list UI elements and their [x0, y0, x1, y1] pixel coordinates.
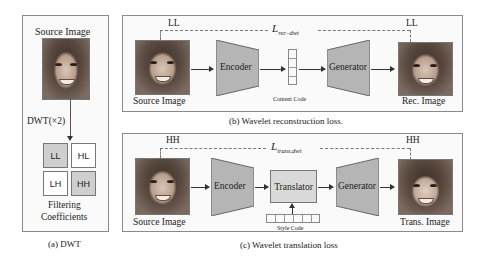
translator-block: Translator	[270, 170, 317, 203]
generator-label-c: Generator	[338, 181, 376, 191]
source-face-c	[135, 158, 190, 215]
caption-a: (a) DWT	[48, 239, 81, 249]
dashed-loss-line-c-left	[160, 148, 266, 149]
dwt-arrow-head	[67, 136, 73, 141]
coef-ll: LL	[43, 143, 68, 168]
coef-hh: HH	[71, 171, 96, 196]
band-hh-left: HH	[166, 135, 180, 145]
dashed-loss-line-b-left	[160, 30, 268, 31]
style-code-arrow-head	[289, 203, 295, 208]
encoder-label-b: Encoder	[220, 62, 252, 72]
arrow-generator-output-b	[371, 69, 394, 70]
style-code-vector	[266, 214, 320, 223]
generator-label-b: Generator	[329, 62, 367, 72]
source-label-b: Source Image	[133, 96, 186, 106]
source-image-title: Source Image	[35, 26, 90, 37]
dwt-arrow-line	[70, 99, 71, 137]
dashed-up-left-b	[160, 30, 161, 40]
arrow-src-encoder-c	[191, 187, 209, 188]
trans-image-label: Trans. Image	[400, 217, 450, 227]
coefficients-label-1: Filtering	[48, 200, 81, 210]
caption-c: (c) Wavelet translation loss	[240, 240, 338, 250]
loss-subscript: rec–dwt	[278, 29, 299, 36]
dashed-up-left-c	[160, 148, 161, 158]
arrow-encoder-translator	[255, 187, 268, 188]
arrow-src-encoder-b	[191, 69, 213, 70]
source-label-c: Source Image	[133, 217, 186, 227]
style-code-label: Style Code	[277, 225, 304, 231]
loss-trans-dwt: Ltrans.dwt	[271, 140, 302, 154]
arrow-translator-generator	[318, 187, 333, 188]
trans-face-image	[398, 159, 453, 215]
caption-b: (b) Wavelet reconstruction loss.	[229, 116, 343, 126]
content-code-label: Content Code	[273, 96, 306, 102]
band-ll-left: LL	[168, 18, 180, 28]
content-code-vector	[288, 49, 297, 85]
rec-image-label: Rec. Image	[402, 96, 445, 106]
coef-hl: HL	[71, 143, 96, 168]
dashed-loss-line-c-right	[320, 148, 410, 149]
arrow-generator-output-c	[380, 187, 394, 188]
band-ll-right: LL	[406, 18, 418, 28]
source-face-image	[42, 38, 90, 100]
coefficients-label-2: Coefficients	[41, 212, 87, 222]
rec-face-image	[398, 42, 453, 96]
dwt-operation-label: DWT(×2)	[27, 116, 65, 126]
coef-lh: LH	[43, 171, 68, 196]
arrow-code-generator-b	[299, 69, 325, 70]
band-hh-right: HH	[406, 135, 420, 145]
loss-rec-dwt: Lrec–dwt	[272, 22, 299, 36]
dashed-loss-line-b-right	[318, 30, 410, 31]
source-face-b	[135, 40, 190, 95]
dashed-up-right-b	[410, 30, 411, 42]
encoder-label-c: Encoder	[214, 181, 246, 191]
loss-subscript-c: trans.dwt	[277, 147, 301, 154]
arrow-encoder-code-b	[260, 69, 285, 70]
